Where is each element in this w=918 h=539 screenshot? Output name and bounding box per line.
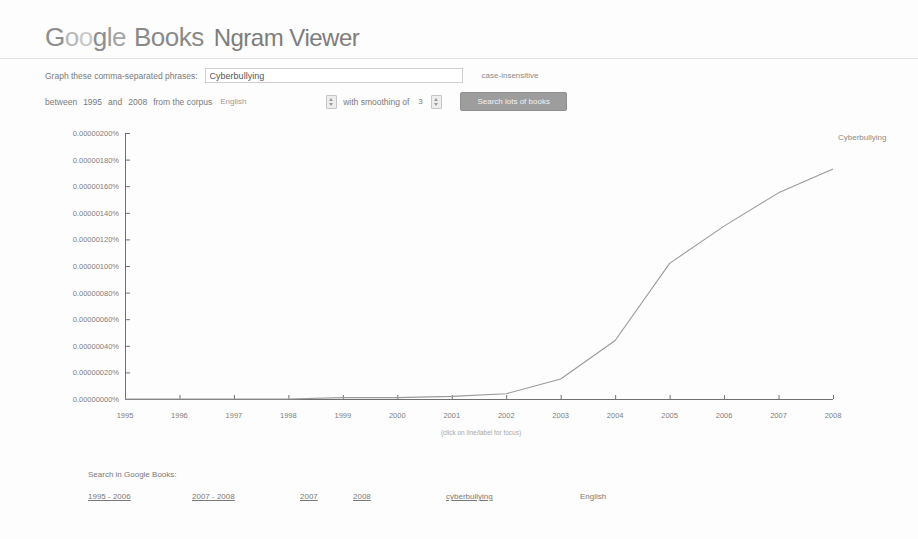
options-form-row: between 1995 and 2008 from the corpus En… — [45, 92, 567, 111]
case-insensitive-label: case-insensitive — [482, 71, 539, 80]
x-axis-tick-label: 2006 — [716, 411, 733, 420]
x-axis-tick-label: 2008 — [825, 411, 842, 420]
footer-link-cyberbullying[interactable]: cyberbullying — [446, 492, 493, 501]
footer-link-2007-2008[interactable]: 2007 - 2008 — [192, 492, 235, 501]
chart-focus-note: (click on line/label for focus) — [125, 429, 837, 436]
y-axis-tick-label: 0.00000120% — [73, 235, 119, 244]
y-axis-tick-label: 0.00000000% — [73, 395, 119, 404]
y-axis-tick-label: 0.00000060% — [73, 315, 119, 324]
footer-link-1995-2006[interactable]: 1995 - 2006 — [88, 492, 131, 501]
smoothing-label: with smoothing of — [343, 97, 409, 107]
year-end-input[interactable]: 2008 — [128, 97, 147, 107]
logo-ngram-viewer-word: Ngram Viewer — [214, 24, 360, 51]
y-axis-tick-label: 0.00000160% — [73, 182, 119, 191]
x-axis-tick-label: 2002 — [498, 411, 515, 420]
x-axis-tick-label: 1998 — [280, 411, 297, 420]
y-axis-tick-label: 0.00000040% — [73, 341, 119, 350]
x-axis-tick-label: 2001 — [443, 411, 460, 420]
x-axis-tick-label: 2005 — [661, 411, 678, 420]
corpus-stepper-icon[interactable] — [326, 95, 337, 109]
plot-area: Cyberbullying — [125, 133, 837, 408]
y-axis-tick-label: 0.00000080% — [73, 288, 119, 297]
ngram-chart: 0.00000200%0.00000180%0.00000160%0.00000… — [45, 133, 895, 433]
x-axis-tick-label: 2003 — [552, 411, 569, 420]
phrase-form-row: Graph these comma-separated phrases: cas… — [45, 68, 539, 83]
header-divider — [0, 58, 918, 59]
x-axis-tick-label: 1997 — [226, 411, 243, 420]
x-axis-tick-label: 2007 — [770, 411, 787, 420]
footer-link-english: English — [580, 492, 606, 501]
x-axis-tick-label: 1996 — [171, 411, 188, 420]
logo-letter-o2: o — [79, 22, 93, 52]
logo-letter-o1: o — [65, 22, 79, 52]
x-axis-tick-label: 2004 — [607, 411, 624, 420]
ngram-viewer-page: GoogleBooksNgram Viewer Graph these comm… — [0, 0, 918, 539]
corpus-select[interactable]: English — [218, 97, 320, 106]
google-books-ngram-logo: GoogleBooksNgram Viewer — [45, 22, 359, 53]
corpus-label: from the corpus — [153, 97, 212, 107]
search-in-google-books-title: Search in Google Books: — [88, 470, 177, 479]
y-axis-tick-label: 0.00000140% — [73, 208, 119, 217]
footer-links: 1995 - 20062007 - 200820072008cyberbully… — [88, 492, 848, 506]
footer-link-2007[interactable]: 2007 — [300, 492, 318, 501]
footer-link-2008[interactable]: 2008 — [353, 492, 371, 501]
x-axis-ticks — [126, 395, 834, 399]
between-label: between — [45, 97, 77, 107]
phrase-input[interactable] — [205, 68, 463, 83]
x-axis-tick-label: 1995 — [117, 411, 134, 420]
logo-letter-e: e — [112, 22, 126, 52]
phrase-label: Graph these comma-separated phrases: — [45, 71, 198, 81]
smoothing-value[interactable]: 3 — [415, 97, 425, 106]
x-axis-tick-label: 1999 — [335, 411, 352, 420]
x-axis-tick-label: 2000 — [389, 411, 406, 420]
smoothing-stepper-icon[interactable] — [431, 95, 442, 109]
logo-books-word: Books — [134, 22, 204, 52]
y-axis-tick-label: 0.00000100% — [73, 262, 119, 271]
search-button[interactable]: Search lots of books — [460, 92, 566, 111]
series-label-cyberbullying[interactable]: Cyberbullying — [838, 133, 886, 142]
chart-svg — [125, 133, 837, 408]
logo-letter-g: G — [45, 22, 65, 52]
and-label: and — [108, 97, 122, 107]
year-start-input[interactable]: 1995 — [83, 97, 102, 107]
y-axis-labels: 0.00000200%0.00000180%0.00000160%0.00000… — [45, 133, 123, 408]
series-line-cyberbullying[interactable] — [125, 169, 833, 399]
y-axis-tick-label: 0.00000180% — [73, 155, 119, 164]
y-axis-tick-label: 0.00000200% — [73, 129, 119, 138]
x-axis-labels: 1995199619971998199920002001200220032004… — [125, 411, 837, 425]
y-axis-tick-label: 0.00000020% — [73, 368, 119, 377]
logo-letter-g2: g — [93, 22, 107, 52]
